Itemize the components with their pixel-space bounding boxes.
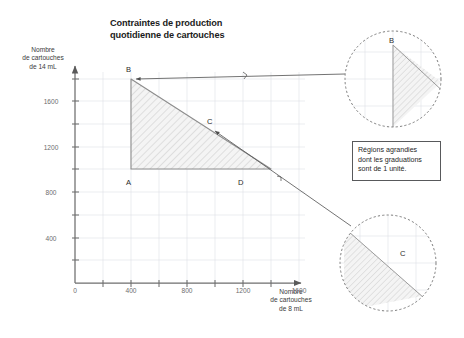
magnifier-c xyxy=(340,215,436,311)
y-tick-800: 800 xyxy=(36,189,66,196)
point-label-d: D xyxy=(238,178,243,187)
callout-box: Régions agrandies dont les graduations s… xyxy=(352,141,441,181)
leader-arrow-b xyxy=(136,72,345,79)
y-tick-1600: 1600 xyxy=(36,98,66,105)
page-title: Contraintes de production quotidienne de… xyxy=(110,17,280,41)
point-label-a: A xyxy=(126,178,131,187)
x-tick-800: 800 xyxy=(172,287,202,294)
x-tick-1200: 1200 xyxy=(228,287,258,294)
y-axis-label: Nombre de cartouches de 14 mL xyxy=(10,46,76,71)
grid-lines xyxy=(75,72,305,283)
leader-arrow-c xyxy=(215,131,351,226)
y-tick-400: 400 xyxy=(36,235,66,242)
axis-lines xyxy=(75,66,301,283)
x-tick-1600: 1600 xyxy=(284,287,314,294)
magnifier-c-label: C xyxy=(400,249,405,258)
x-tick-0: 0 xyxy=(60,287,90,294)
point-label-b: B xyxy=(126,65,131,74)
y-tick-1200: 1200 xyxy=(36,144,66,151)
figure-canvas: Contraintes de production quotidienne de… xyxy=(0,0,464,338)
magnifier-b-label: B xyxy=(389,36,394,45)
magnifier-b xyxy=(345,31,448,127)
x-tick-400: 400 xyxy=(116,287,146,294)
point-label-c: C xyxy=(207,117,212,126)
